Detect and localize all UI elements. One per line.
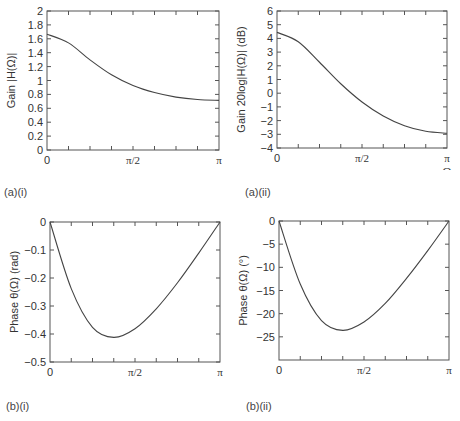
y-tick-label: 6 bbox=[267, 5, 273, 17]
y-tick-label: 2 bbox=[267, 60, 273, 72]
y-axis-label: Gain |H(Ω)| bbox=[5, 53, 17, 109]
data-curve bbox=[50, 222, 220, 337]
x-tick-label: π/2 bbox=[355, 152, 369, 164]
x-tick-label: π bbox=[216, 154, 222, 166]
x-tick-label: 0 bbox=[47, 366, 53, 378]
y-tick-label: 1.2 bbox=[28, 61, 43, 73]
chart-phase-rad-svg: −0.5−0.4−0.3−0.2−0.100π/2πΩPhase θ(Ω) (r… bbox=[0, 210, 230, 380]
y-tick-label: 0 bbox=[40, 216, 46, 228]
x-tick-label: π/2 bbox=[126, 154, 140, 166]
x-tick-label: π bbox=[444, 152, 450, 164]
x-axis-label: Ω bbox=[443, 165, 452, 170]
x-tick-label: π/2 bbox=[357, 364, 371, 376]
y-tick-label: −15 bbox=[256, 285, 275, 297]
chart-gain-linear: 00.20.40.60.811.21.41.61.820π/2πΩGain |H… bbox=[0, 0, 230, 170]
chart-phase-rad: −0.5−0.4−0.3−0.2−0.100π/2πΩPhase θ(Ω) (r… bbox=[0, 210, 230, 380]
y-tick-label: −0.1 bbox=[24, 244, 46, 256]
chart-gain-db-svg: −4−3−2−101234560π/2πΩGain 20log|H(Ω)| (d… bbox=[230, 0, 460, 170]
y-tick-label: −2 bbox=[260, 115, 273, 127]
y-axis-label: Phase θ(Ω) (°) bbox=[237, 255, 249, 326]
chart-phase-deg: −25−20−15−10−500π/2πΩPhase θ(Ω) (°) bbox=[230, 210, 460, 380]
plot-frame bbox=[50, 222, 220, 362]
y-tick-label: 1.4 bbox=[28, 47, 43, 59]
y-tick-label: −4 bbox=[260, 142, 273, 154]
y-tick-label: −0.3 bbox=[24, 300, 46, 312]
y-tick-label: 1 bbox=[37, 75, 43, 87]
chart-gain-linear-svg: 00.20.40.60.811.21.41.61.820π/2πΩGain |H… bbox=[0, 0, 230, 170]
y-tick-label: 0 bbox=[269, 215, 275, 227]
x-tick-label: 0 bbox=[274, 152, 280, 164]
y-tick-label: 4 bbox=[267, 32, 273, 44]
y-tick-label: 0 bbox=[37, 144, 43, 156]
y-axis-label: Gain 20log|H(Ω)| (dB) bbox=[235, 26, 247, 132]
x-tick-label: π/2 bbox=[128, 366, 142, 378]
chart-gain-db: −4−3−2−101234560π/2πΩGain 20log|H(Ω)| (d… bbox=[230, 0, 460, 170]
caption-b-ii: (b)(ii) bbox=[246, 400, 272, 412]
x-axis-label: Ω bbox=[215, 167, 224, 170]
y-tick-label: 1 bbox=[267, 74, 273, 86]
data-curve bbox=[47, 34, 219, 100]
y-tick-label: 2 bbox=[37, 5, 43, 17]
data-curve bbox=[279, 221, 449, 330]
x-tick-label: 0 bbox=[44, 154, 50, 166]
y-tick-label: 1.8 bbox=[28, 19, 43, 31]
x-axis-label: Ω bbox=[445, 377, 454, 380]
y-tick-label: −10 bbox=[256, 261, 275, 273]
y-tick-label: −20 bbox=[256, 308, 275, 320]
data-curve bbox=[277, 32, 447, 133]
y-tick-label: 0.8 bbox=[28, 88, 43, 100]
plot-frame bbox=[277, 11, 447, 148]
caption-a-i: (a)(i) bbox=[4, 186, 27, 198]
y-tick-label: −3 bbox=[260, 128, 273, 140]
x-tick-label: π bbox=[446, 364, 452, 376]
y-tick-label: 1.6 bbox=[28, 33, 43, 45]
y-tick-label: 0 bbox=[267, 87, 273, 99]
y-tick-label: −0.4 bbox=[24, 328, 46, 340]
y-tick-label: −0.5 bbox=[24, 356, 46, 368]
chart-phase-deg-svg: −25−20−15−10−500π/2πΩPhase θ(Ω) (°) bbox=[230, 210, 460, 380]
y-tick-label: −0.2 bbox=[24, 272, 46, 284]
y-tick-label: −25 bbox=[256, 331, 275, 343]
caption-b-i: (b)(i) bbox=[6, 400, 29, 412]
plot-frame bbox=[47, 11, 219, 150]
y-tick-label: 0.6 bbox=[28, 102, 43, 114]
y-tick-label: −5 bbox=[262, 238, 275, 250]
plot-frame bbox=[279, 221, 449, 360]
y-axis-label: Phase θ(Ω) (rad) bbox=[8, 251, 20, 333]
y-tick-label: 3 bbox=[267, 46, 273, 58]
caption-a-ii: (a)(ii) bbox=[245, 186, 271, 198]
y-tick-label: 0.2 bbox=[28, 130, 43, 142]
y-tick-label: 0.4 bbox=[28, 116, 43, 128]
x-tick-label: 0 bbox=[276, 364, 282, 376]
y-tick-label: −1 bbox=[260, 101, 273, 113]
x-axis-label: Ω bbox=[216, 379, 225, 380]
y-tick-label: 5 bbox=[267, 19, 273, 31]
x-tick-label: π bbox=[217, 366, 223, 378]
